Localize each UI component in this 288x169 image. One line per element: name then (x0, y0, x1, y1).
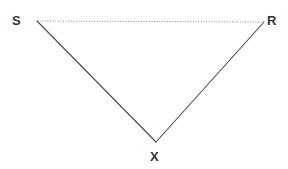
edge-X-R (156, 22, 264, 142)
diagram-canvas: S R X (0, 0, 288, 169)
triangle-diagram (0, 0, 288, 169)
edge-S-X (37, 21, 156, 142)
vertex-label-r: R (267, 14, 276, 27)
vertex-label-x: X (150, 150, 159, 163)
vertex-label-s: S (12, 14, 21, 27)
edge-S-R (37, 21, 264, 22)
